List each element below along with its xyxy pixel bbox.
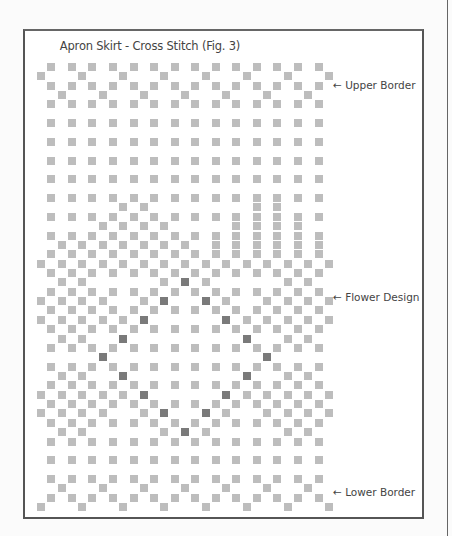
light-stitch (119, 241, 127, 249)
light-stitch (58, 372, 66, 380)
light-stitch (130, 475, 138, 483)
light-stitch (212, 306, 220, 314)
light-stitch (294, 381, 302, 389)
light-stitch (171, 344, 179, 352)
light-stitch (150, 194, 158, 202)
light-stitch (243, 72, 251, 80)
light-stitch (191, 250, 199, 258)
light-stitch (88, 494, 96, 502)
light-stitch (191, 325, 199, 333)
light-stitch (109, 381, 117, 389)
light-stitch (171, 82, 179, 90)
light-stitch (253, 222, 261, 230)
light-stitch (130, 381, 138, 389)
light-stitch (78, 278, 86, 286)
light-stitch (273, 63, 281, 71)
light-stitch (68, 381, 76, 389)
light-stitch (273, 269, 281, 277)
light-stitch (304, 372, 312, 380)
page-edge-divider (447, 0, 448, 536)
light-stitch (58, 484, 66, 492)
light-stitch (284, 335, 292, 343)
light-stitch (47, 456, 55, 464)
light-stitch (130, 325, 138, 333)
light-stitch (78, 428, 86, 436)
light-stitch (150, 381, 158, 389)
light-stitch (304, 91, 312, 99)
light-stitch (68, 325, 76, 333)
light-stitch (273, 203, 281, 211)
light-stitch (202, 260, 210, 268)
light-stitch (304, 260, 312, 268)
light-stitch (315, 419, 323, 427)
light-stitch (88, 400, 96, 408)
light-stitch (212, 475, 220, 483)
dark-stitch (181, 278, 189, 286)
light-stitch (171, 419, 179, 427)
light-stitch (68, 269, 76, 277)
light-stitch (140, 409, 148, 417)
light-stitch (212, 494, 220, 502)
light-stitch (150, 438, 158, 446)
light-stitch (232, 494, 240, 502)
light-stitch (88, 475, 96, 483)
light-stitch (109, 63, 117, 71)
light-stitch (253, 232, 261, 240)
light-stitch (150, 213, 158, 221)
light-stitch (88, 119, 96, 127)
light-stitch (130, 494, 138, 502)
light-stitch (99, 222, 107, 230)
dark-stitch (119, 335, 127, 343)
light-stitch (68, 138, 76, 146)
light-stitch (130, 175, 138, 183)
light-stitch (304, 278, 312, 286)
light-stitch (212, 232, 220, 240)
light-stitch (109, 119, 117, 127)
light-stitch (88, 82, 96, 90)
light-stitch (47, 232, 55, 240)
light-stitch (68, 63, 76, 71)
light-stitch (212, 82, 220, 90)
light-stitch (171, 119, 179, 127)
light-stitch (140, 203, 148, 211)
light-stitch (212, 363, 220, 371)
light-stitch (232, 456, 240, 464)
light-stitch (58, 391, 66, 399)
light-stitch (232, 63, 240, 71)
light-stitch (273, 306, 281, 314)
light-stitch (315, 241, 323, 249)
light-stitch (315, 381, 323, 389)
light-stitch (109, 400, 117, 408)
light-stitch (191, 269, 199, 277)
light-stitch (130, 306, 138, 314)
light-stitch (273, 82, 281, 90)
light-stitch (88, 250, 96, 258)
light-stitch (315, 456, 323, 464)
light-stitch (263, 484, 271, 492)
light-stitch (284, 297, 292, 305)
light-stitch (58, 409, 66, 417)
dark-stitch (181, 428, 189, 436)
light-stitch (88, 175, 96, 183)
light-stitch (253, 250, 261, 258)
light-stitch (47, 138, 55, 146)
dark-stitch (119, 372, 127, 380)
light-stitch (171, 269, 179, 277)
light-stitch (171, 194, 179, 202)
light-stitch (47, 269, 55, 277)
light-stitch (88, 157, 96, 165)
light-stitch (47, 250, 55, 258)
light-stitch (47, 344, 55, 352)
light-stitch (263, 391, 271, 399)
light-stitch (58, 278, 66, 286)
light-stitch (212, 119, 220, 127)
light-stitch (294, 222, 302, 230)
light-stitch (99, 391, 107, 399)
light-stitch (243, 391, 251, 399)
light-stitch (119, 391, 127, 399)
light-stitch (109, 344, 117, 352)
light-stitch (68, 119, 76, 127)
light-stitch (232, 288, 240, 296)
light-stitch (109, 456, 117, 464)
light-stitch (119, 222, 127, 230)
